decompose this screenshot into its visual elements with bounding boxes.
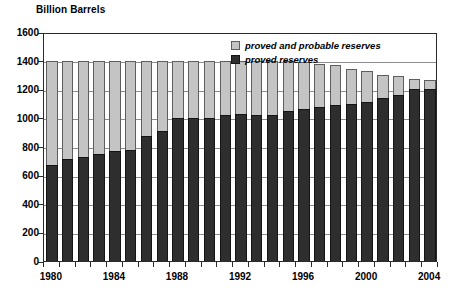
x-tick-mark <box>185 262 186 267</box>
x-tick-mark <box>374 262 375 267</box>
bar-proved <box>361 102 372 261</box>
legend-swatch-total <box>231 41 240 50</box>
x-tick-mark <box>216 262 217 267</box>
y-tick-label: 200 <box>22 228 39 238</box>
x-tick-mark <box>43 262 44 267</box>
x-tick-mark <box>106 262 107 267</box>
bar-group <box>188 32 199 261</box>
bar-proved <box>141 136 152 261</box>
x-tick-mark <box>248 262 249 267</box>
bar-proved <box>109 151 120 261</box>
x-tick-mark <box>169 262 170 267</box>
y-tick-label: 400 <box>22 200 39 210</box>
bar-proved <box>314 107 325 261</box>
bar-group <box>393 32 404 261</box>
bar-proved <box>188 118 199 261</box>
x-tick-mark <box>437 262 438 267</box>
y-tick-label: 0 <box>33 257 39 267</box>
bar-group <box>78 32 89 261</box>
bar-proved <box>204 118 215 261</box>
x-tick-mark <box>405 262 406 267</box>
y-tick-label: 1000 <box>17 114 39 124</box>
y-tick-label: 800 <box>22 143 39 153</box>
bar-proved <box>78 157 89 261</box>
x-tick-label: 1988 <box>157 271 197 282</box>
y-tick-label: 600 <box>22 171 39 181</box>
bar-group <box>46 32 57 261</box>
bar-proved <box>157 131 168 261</box>
legend-label: proved and probable reserves <box>245 40 381 51</box>
bar-proved <box>377 98 388 261</box>
bar-proved <box>125 150 136 261</box>
bar-proved <box>267 115 278 261</box>
x-tick-label: 1984 <box>94 271 134 282</box>
x-tick-mark <box>421 262 422 267</box>
x-tick-mark <box>201 262 202 267</box>
x-tick-mark <box>264 262 265 267</box>
x-tick-label: 1996 <box>283 271 323 282</box>
bar-group <box>93 32 104 261</box>
y-axis-title: Billion Barrels <box>36 4 105 15</box>
x-tick-mark <box>390 262 391 267</box>
y-tick-label: 1400 <box>17 57 39 67</box>
x-tick-mark <box>153 262 154 267</box>
x-tick-mark <box>232 262 233 267</box>
x-tick-label: 2004 <box>409 271 449 282</box>
x-tick-mark <box>90 262 91 267</box>
x-tick-mark <box>279 262 280 267</box>
x-tick-mark <box>358 262 359 267</box>
bar-proved <box>283 111 294 261</box>
bar-proved <box>220 115 231 261</box>
bar-proved <box>46 165 57 261</box>
bar-proved <box>172 118 183 261</box>
y-tick-label: 1600 <box>17 28 39 38</box>
x-tick-label: 1980 <box>31 271 71 282</box>
x-tick-mark <box>327 262 328 267</box>
bar-group <box>409 32 420 261</box>
bar-group <box>157 32 168 261</box>
x-tick-mark <box>342 262 343 267</box>
bar-proved <box>93 154 104 261</box>
legend-swatch-proved <box>231 55 240 64</box>
bars-layer <box>44 34 436 261</box>
bar-proved <box>424 89 435 261</box>
bar-proved <box>393 95 404 261</box>
bar-group <box>220 32 231 261</box>
x-tick-label: 2000 <box>346 271 386 282</box>
bar-proved <box>298 109 309 261</box>
y-tick-label: 1200 <box>17 85 39 95</box>
x-tick-label: 1992 <box>220 271 260 282</box>
bar-group <box>424 32 435 261</box>
bar-group <box>109 32 120 261</box>
bar-group <box>141 32 152 261</box>
x-tick-mark <box>75 262 76 267</box>
bar-group <box>125 32 136 261</box>
bar-group <box>62 32 73 261</box>
bar-proved <box>62 159 73 261</box>
chart-legend: proved and probable reservesproved reser… <box>231 40 381 68</box>
legend-label: proved reserves <box>245 54 318 65</box>
bar-proved <box>235 114 246 261</box>
x-tick-mark <box>59 262 60 267</box>
bar-group <box>172 32 183 261</box>
legend-item: proved reserves <box>231 54 381 65</box>
bar-proved <box>409 89 420 261</box>
x-tick-mark <box>311 262 312 267</box>
x-tick-mark <box>138 262 139 267</box>
bar-proved <box>330 105 341 261</box>
bar-chart: Billion Barrels 020040060080010001200140… <box>0 0 459 290</box>
x-tick-mark <box>295 262 296 267</box>
legend-item: proved and probable reserves <box>231 40 381 51</box>
x-tick-mark <box>122 262 123 267</box>
bar-proved <box>251 115 262 261</box>
y-axis: 02004006008001000120014001600 <box>0 0 39 290</box>
bar-proved <box>346 104 357 261</box>
bar-group <box>204 32 215 261</box>
